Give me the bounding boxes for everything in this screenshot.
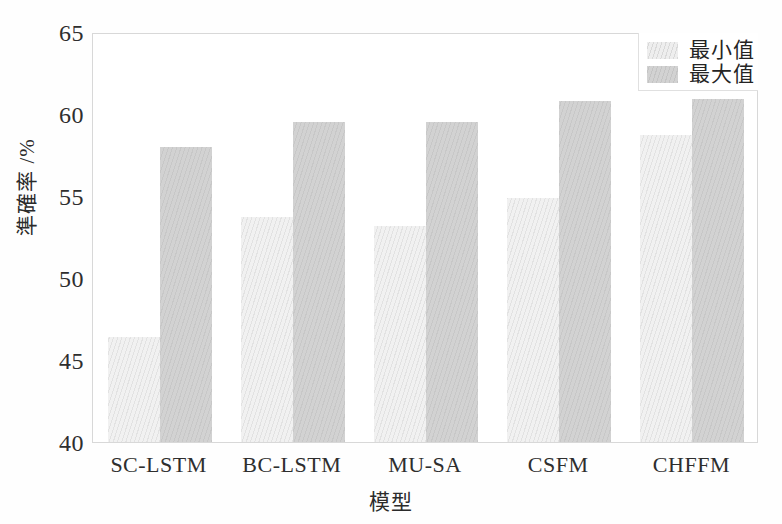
bar xyxy=(374,226,426,442)
y-axis-tick-label: 45 xyxy=(40,349,84,373)
legend-label-max: 最大值 xyxy=(689,64,755,85)
y-axis-title: 準確率 /% xyxy=(10,102,40,272)
bar xyxy=(241,217,293,442)
y-axis-tick-label: 50 xyxy=(40,267,84,291)
bar xyxy=(692,99,744,442)
bar xyxy=(293,122,345,442)
legend-item: 最大值 xyxy=(647,62,758,86)
bar-chart: 404550556065 準確率 /% SC-LSTMBC-LSTMMU-SAC… xyxy=(0,0,782,524)
legend-item: 最小值 xyxy=(647,38,758,62)
y-axis-tick-label: 55 xyxy=(40,185,84,209)
x-axis-tick-label: CHFFM xyxy=(601,452,781,478)
y-axis-tick-label: 60 xyxy=(40,103,84,127)
bar xyxy=(108,337,160,442)
y-axis-tick-label: 65 xyxy=(40,21,84,45)
bar xyxy=(640,135,692,442)
plot-area xyxy=(92,33,758,443)
x-axis-title: 模型 xyxy=(0,485,782,515)
bar xyxy=(507,198,559,442)
legend: 最小值 最大值 xyxy=(638,33,758,91)
legend-label-min: 最小值 xyxy=(689,40,755,61)
bar xyxy=(426,122,478,442)
legend-swatch-min-icon xyxy=(647,42,678,59)
bar xyxy=(160,147,212,442)
bar xyxy=(559,101,611,442)
legend-swatch-max-icon xyxy=(647,66,678,83)
